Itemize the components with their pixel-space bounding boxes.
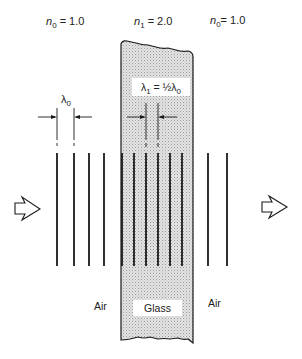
left-index-label: n0 = 1.0 [46, 16, 84, 27]
lambda-relation: = ½λ [151, 81, 177, 93]
wavefronts-air-left [57, 153, 104, 266]
index-value: = 1.0 [57, 15, 85, 27]
index-value: = 1.0 [221, 14, 246, 26]
index-value: = 2.0 [145, 15, 173, 27]
lambda0-label: λ0 [61, 94, 71, 105]
region-label-air-left: Air [94, 301, 107, 312]
lambda0-dimension [38, 108, 92, 146]
hollow-arrow-right-icon [262, 196, 287, 218]
region-label-air-right: Air [208, 298, 221, 309]
wavefronts-air-right [208, 153, 227, 266]
lambda1-label: λ1 = ½λ0 [132, 78, 190, 96]
lambda-rhs-subscript: 0 [177, 87, 181, 96]
lambda-subscript: 0 [67, 99, 71, 108]
region-label-glass: Glass [133, 300, 182, 316]
right-index-label: n0= 1.0 [210, 15, 245, 26]
center-index-label: n1 = 2.0 [134, 16, 172, 27]
hollow-arrow-right-icon [15, 197, 40, 220]
